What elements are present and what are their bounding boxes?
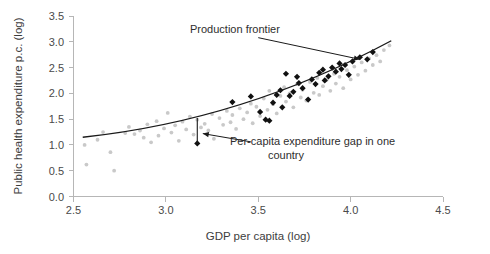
data-point-gray [177, 139, 181, 143]
chart-figure: 0.00.51.01.52.02.53.03.5 2.53.03.54.04.5… [0, 0, 490, 254]
data-point-diamond [248, 93, 254, 99]
data-point-gray [382, 48, 386, 52]
expenditure-gap-leader-arrowhead [203, 132, 209, 137]
x-tick-label: 3.0 [158, 204, 173, 216]
data-point-gray [112, 169, 116, 173]
y-tick-label: 2.0 [49, 87, 64, 99]
data-point-gray [328, 89, 332, 93]
data-point-gray [109, 150, 113, 154]
y-tick-label: 3.5 [49, 10, 64, 22]
annotation-expenditure-gap-line1: Per-capita expenditure gap in one [230, 135, 395, 147]
data-point-gray [249, 102, 253, 106]
data-point-gray [284, 100, 288, 104]
data-point-gray [275, 112, 279, 116]
data-point-diamond [312, 81, 318, 87]
data-point-gray [341, 86, 345, 90]
data-point-diamond [294, 74, 300, 80]
data-point-gray [157, 134, 161, 138]
data-point-diamond [287, 93, 293, 99]
data-point-gray [212, 137, 216, 141]
data-point-gray [321, 84, 325, 88]
data-point-gray [199, 125, 203, 129]
y-tick-label: 0.5 [49, 165, 64, 177]
data-point-gray [375, 53, 379, 57]
y-tick-label: 2.5 [49, 62, 64, 74]
data-point-gray [245, 111, 249, 115]
y-axis-ticks: 0.00.51.01.52.02.53.03.5 [49, 10, 74, 203]
data-point-gray [146, 122, 150, 126]
data-point-gray [206, 129, 210, 133]
data-point-gray [229, 120, 233, 124]
production-frontier-leader-line [258, 38, 360, 60]
data-point-gray [242, 117, 246, 121]
data-point-gray [149, 140, 153, 144]
annotation-production-frontier: Production frontier [190, 23, 280, 35]
data-point-gray [371, 63, 375, 67]
data-point-gray [166, 111, 170, 115]
data-point-gray [364, 69, 368, 73]
data-point-gray [203, 122, 207, 126]
data-point-gray [360, 61, 364, 65]
x-tick-label: 2.5 [66, 204, 81, 216]
x-tick-label: 4.5 [435, 204, 450, 216]
x-axis-title: GDP per capita (log) [206, 230, 311, 242]
y-tick-label: 1.0 [49, 139, 64, 151]
data-point-gray [133, 132, 137, 136]
data-point-gray [218, 116, 222, 120]
data-point-gray [96, 138, 100, 142]
data-point-gray [173, 123, 177, 127]
data-point-diamond [346, 72, 352, 78]
data-point-gray [388, 43, 392, 47]
production-frontier-line [83, 41, 392, 137]
annotation-expenditure-gap-line2: country [268, 149, 305, 161]
y-axis-title: Public health expenditure p.c. (log) [12, 17, 24, 194]
data-point-gray [334, 82, 338, 86]
data-point-gray [338, 75, 342, 79]
data-point-diamond [270, 100, 276, 106]
data-point-gray [170, 131, 174, 135]
scatter-chart-svg: 0.00.51.01.52.02.53.03.5 2.53.03.54.04.5… [0, 0, 490, 254]
data-point-gray [349, 78, 353, 82]
x-axis-ticks: 2.53.03.54.04.5 [66, 197, 451, 217]
data-point-gray [352, 65, 356, 69]
data-point-gray [142, 136, 146, 140]
data-point-gray [291, 105, 295, 109]
data-point-gray [85, 163, 89, 167]
data-point-gray [251, 121, 255, 125]
x-tick-label: 4.0 [343, 204, 358, 216]
y-tick-label: 3.0 [49, 36, 64, 48]
data-point-gray [192, 133, 196, 137]
data-point-diamond [279, 104, 285, 110]
x-tick-label: 3.5 [251, 204, 266, 216]
data-point-gray [312, 91, 316, 95]
data-point-gray [221, 123, 225, 127]
data-point-gray [266, 108, 270, 112]
data-point-gray [155, 119, 159, 123]
data-point-gray [317, 93, 321, 97]
y-tick-label: 1.5 [49, 113, 64, 125]
data-point-diamond [299, 85, 305, 91]
data-point-gray [356, 73, 360, 77]
data-point-diamond [257, 109, 263, 115]
black-diamond-points [194, 49, 376, 146]
y-tick-label: 0.0 [49, 191, 64, 203]
data-point-gray [255, 105, 259, 109]
data-point-gray [162, 127, 166, 131]
data-point-gray [230, 113, 234, 117]
data-point-gray [101, 130, 105, 134]
data-point-gray [345, 68, 349, 72]
data-point-gray [184, 128, 188, 132]
data-point-gray [299, 96, 303, 100]
data-point-gray [378, 59, 382, 63]
data-point-diamond [283, 71, 289, 77]
data-point-gray [83, 143, 87, 147]
data-point-diamond [229, 99, 235, 105]
data-point-gray [238, 106, 242, 110]
data-point-gray [127, 125, 131, 129]
data-point-gray [234, 127, 238, 131]
data-point-gray [267, 89, 271, 93]
